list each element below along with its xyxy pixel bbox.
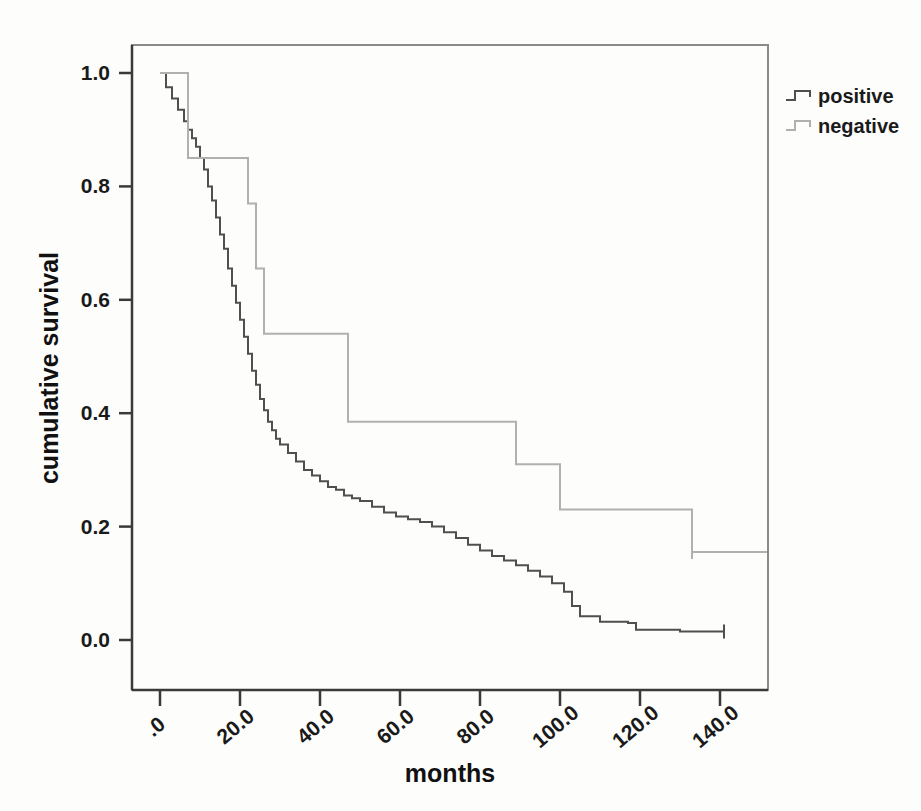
x-axis: .020.040.060.080.0100.0120.0140.0 <box>132 690 768 752</box>
y-tick-label: 0.2 <box>81 515 110 538</box>
legend-step-line-icon <box>786 121 810 130</box>
x-tick-label: 60.0 <box>372 704 418 748</box>
y-axis: 0.00.20.40.60.81.0 <box>81 45 132 690</box>
series-line-negative <box>160 73 784 595</box>
y-tick-label: 0.8 <box>81 174 111 197</box>
series-line-positive <box>160 73 724 632</box>
x-tick-label: 140.0 <box>688 701 743 752</box>
chart-legend[interactable]: positivenegative <box>786 85 899 137</box>
legend-step-line-icon <box>786 91 810 100</box>
plot-border <box>132 45 768 690</box>
kaplan-meier-figure: 0.00.20.40.60.81.0 .020.040.060.080.0100… <box>0 0 921 811</box>
y-tick-label: 0.0 <box>81 628 110 651</box>
y-tick-label: 1.0 <box>81 61 110 84</box>
y-axis-title: cumulative survival <box>35 252 63 484</box>
x-tick-label: 120.0 <box>608 701 663 752</box>
x-tick-label: .0 <box>141 712 169 741</box>
y-tick-label: 0.6 <box>81 288 110 311</box>
y-tick-label: 0.4 <box>81 401 111 424</box>
legend-label: positive <box>818 85 894 107</box>
plot-frame <box>132 45 768 690</box>
x-tick-label: 20.0 <box>212 704 258 748</box>
x-tick-label: 100.0 <box>528 701 583 752</box>
survival-chart: 0.00.20.40.60.81.0 .020.040.060.080.0100… <box>0 0 921 811</box>
legend-item-positive[interactable]: positive <box>786 85 894 107</box>
legend-item-negative[interactable]: negative <box>786 115 899 137</box>
series-lines <box>160 73 784 638</box>
x-tick-label: 80.0 <box>452 704 498 748</box>
x-tick-label: 40.0 <box>292 704 338 748</box>
x-axis-title: months <box>405 759 495 787</box>
legend-label: negative <box>818 115 899 137</box>
